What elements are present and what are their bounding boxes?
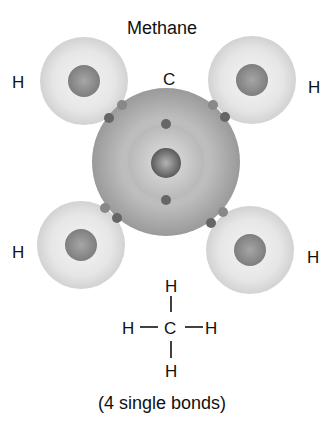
h-label-bottom-left: H — [12, 244, 24, 261]
formula-c-center: C — [164, 320, 176, 337]
formula-h-right: H — [205, 320, 217, 337]
caption: (4 single bonds) — [98, 394, 226, 412]
hydrogen-atom-bottom-right — [206, 206, 294, 294]
hydrogen-atom-bottom-left — [37, 201, 125, 289]
formula-h-left: H — [122, 320, 134, 337]
diagram-title: Methane — [127, 19, 197, 37]
methane-diagram — [0, 0, 331, 424]
formula-h-bottom: H — [165, 363, 177, 380]
hydrogen-atom-top-right — [208, 36, 296, 124]
formula-h-top: H — [165, 278, 177, 295]
carbon-atom — [92, 88, 240, 236]
h-label-top-right: H — [308, 79, 320, 96]
h-label-top-left: H — [12, 74, 24, 91]
h-label-bottom-right: H — [307, 249, 319, 266]
carbon-label: C — [163, 71, 175, 88]
